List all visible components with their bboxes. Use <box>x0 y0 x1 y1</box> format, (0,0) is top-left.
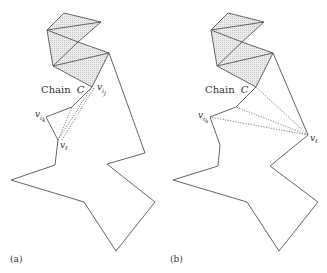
panel-a: ChainC vij vik vℓ (a) <box>10 13 155 264</box>
figure: ChainC vij vik vℓ (a) ChainC <box>0 0 327 273</box>
panel-label-a: (a) <box>10 254 22 264</box>
vertex-label-v-ik: vik <box>198 110 209 124</box>
polygon-boundary <box>11 53 155 251</box>
polygon-boundary <box>173 53 318 251</box>
vertex-label-v-l: vℓ <box>60 140 68 151</box>
triangulated-region <box>211 13 273 87</box>
chain-label: ChainC <box>205 84 249 95</box>
vertex-label-v-ik: vik <box>35 109 46 123</box>
triangulated-region <box>47 13 109 87</box>
panel-b: ChainC vik vℓ (b) <box>170 13 318 264</box>
vertex-label-v-l: vℓ <box>310 133 318 144</box>
vertex-label-v-ij: vij <box>97 82 106 97</box>
chain-label: ChainC <box>41 84 85 95</box>
panel-label-b: (b) <box>170 254 183 264</box>
